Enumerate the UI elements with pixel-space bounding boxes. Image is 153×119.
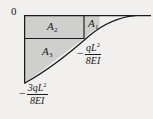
bottom-moment-sign: − [19, 87, 26, 99]
right-moment-denominator: 8EI [85, 55, 101, 66]
area-label-a1-subscript: 1 [95, 23, 99, 31]
area-label-a2: A2 [47, 21, 57, 34]
shaded-area-a3 [25, 39, 85, 84]
area-label-a2-symbol: A [47, 20, 54, 32]
right-moment-fraction: qL2 8EI [85, 42, 101, 66]
area-label-a1-symbol: A [88, 17, 95, 29]
bottom-moment-fraction: 3qL2 8EI [27, 82, 48, 106]
origin-label: 0 [11, 6, 17, 17]
right-moment-numerator-exponent: 2 [97, 41, 100, 48]
area-label-a3-symbol: A [42, 45, 49, 57]
right-moment-sign: − [77, 47, 84, 59]
area-label-a2-subscript: 2 [54, 26, 58, 34]
bottom-moment-value: − 3qL2 8EI [19, 82, 48, 106]
bottom-moment-numerator-base: 3qL [28, 82, 44, 93]
area-label-a3-subscript: 3 [49, 51, 53, 59]
mei-diagram-figure: 0 A2 A1 A3 − qL2 8EI − 3qL2 8EI [0, 0, 153, 119]
bottom-moment-numerator-exponent: 2 [43, 81, 46, 88]
bottom-moment-denominator: 8EI [29, 95, 45, 106]
bottom-moment-numerator: 3qL2 [27, 82, 48, 94]
area-label-a1: A1 [88, 18, 98, 31]
right-moment-numerator-base: qL [86, 42, 97, 53]
right-moment-numerator: qL2 [85, 42, 101, 54]
right-moment-value: − qL2 8EI [77, 42, 101, 66]
area-label-a3: A3 [42, 46, 52, 59]
